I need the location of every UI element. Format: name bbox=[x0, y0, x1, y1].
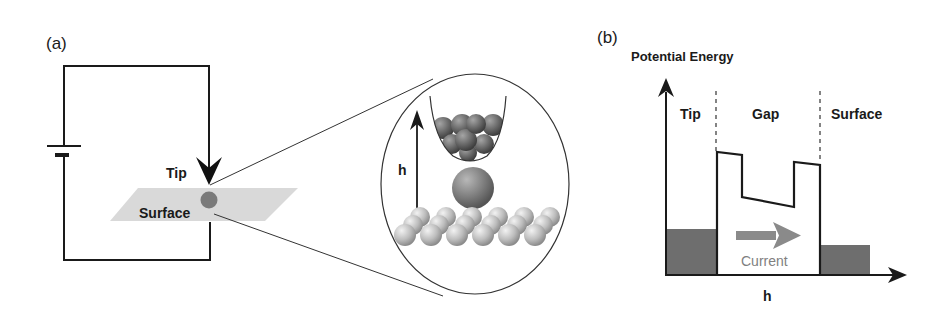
surface-fermi-fill bbox=[821, 245, 870, 275]
battery-icon bbox=[47, 146, 81, 157]
panel-b: (b) Potential Energy Tip Gap Surface Cur… bbox=[597, 28, 907, 304]
magnified-inset: h bbox=[381, 74, 569, 294]
panel-b-label: (b) bbox=[597, 28, 618, 47]
stm-figure: (a) Tip Surface bbox=[0, 0, 938, 316]
panel-a: (a) Tip Surface bbox=[46, 34, 569, 296]
y-axis-label: Potential Energy bbox=[631, 49, 734, 64]
region-label-surface: Surface bbox=[831, 106, 883, 122]
tip-fermi-fill bbox=[667, 229, 716, 275]
inset-adatom bbox=[452, 167, 494, 209]
surface-label: Surface bbox=[139, 205, 191, 221]
tip-label: Tip bbox=[166, 165, 187, 181]
region-label-gap: Gap bbox=[752, 106, 779, 122]
x-axis-label: h bbox=[763, 288, 772, 304]
panel-a-label: (a) bbox=[46, 34, 67, 53]
height-label: h bbox=[398, 162, 407, 178]
current-label: Current bbox=[741, 253, 788, 269]
region-dividers bbox=[716, 91, 820, 162]
adatom bbox=[201, 192, 218, 209]
region-label-tip: Tip bbox=[680, 106, 701, 122]
circuit-wire bbox=[64, 66, 210, 260]
current-arrow-icon bbox=[736, 222, 801, 249]
